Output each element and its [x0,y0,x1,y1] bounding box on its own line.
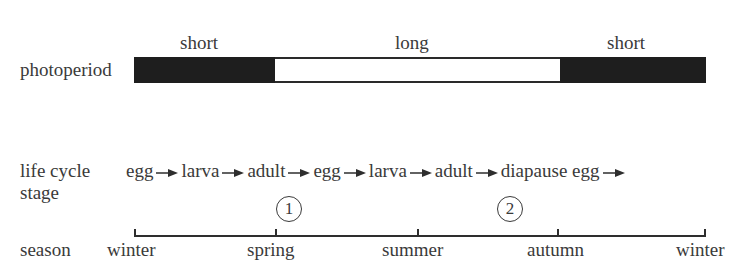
circled-number-icon-1: 1 [276,196,302,222]
stage-adult-1: adult [247,160,285,181]
tick-spring [275,229,277,236]
photoperiod-bar-short-autumn [560,57,706,83]
season-row-label: season [20,239,71,261]
tick-winter-end [704,229,706,236]
right-arrow-icon [222,168,244,178]
right-arrow-icon [344,168,366,178]
right-arrow-icon [410,168,432,178]
life-cycle-row-label-line2: stage [20,182,59,204]
stage-larva-2: larva [369,160,407,181]
photoperiod-label-short-1: short [180,32,218,54]
stage-larva-1: larva [181,160,219,181]
tick-summer [417,229,419,236]
stage-diapause-egg: diapause egg [501,160,600,181]
stage-adult-2: adult [435,160,473,181]
circled-number-icon-2: 2 [497,196,523,222]
right-arrow-icon [603,168,625,178]
season-autumn: autumn [527,239,584,261]
tick-winter-start [134,229,136,236]
photoperiod-bar-short-winter [134,57,275,83]
season-timeline-axis [134,235,706,237]
life-cycle-sequence: egglarvaadultegglarvaadultdiapause egg [126,160,628,182]
season-winter-end: winter [676,239,725,261]
stage-egg-1: egg [126,160,153,181]
season-winter-start: winter [107,239,156,261]
photoperiod-label-long: long [395,32,429,54]
right-arrow-icon [288,168,310,178]
photoperiod-label-short-2: short [607,32,645,54]
photoperiod-bar-long [275,57,560,83]
stage-egg-2: egg [313,160,340,181]
life-cycle-row-label-line1: life cycle [20,160,90,182]
season-spring: spring [247,239,295,261]
tick-autumn [557,229,559,236]
right-arrow-icon [156,168,178,178]
season-summer: summer [382,239,443,261]
photoperiod-row-label: photoperiod [20,59,112,81]
right-arrow-icon [476,168,498,178]
